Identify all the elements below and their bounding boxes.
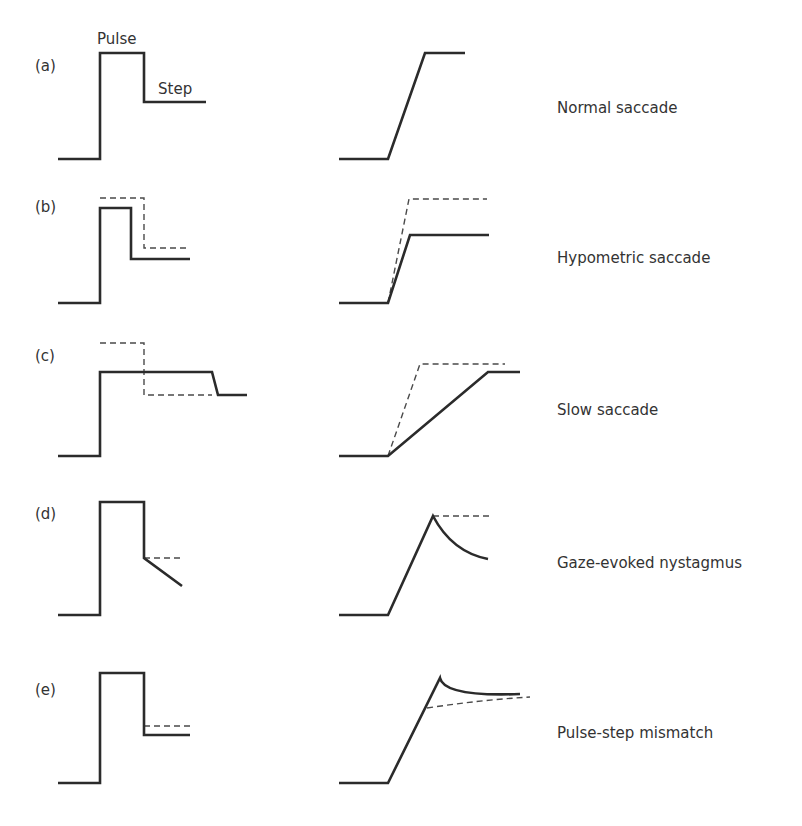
panel-e-normal-eye-position [427,697,530,708]
pulse-annotation: Pulse [97,30,137,48]
panel-label-b: (b) [35,198,56,216]
panel-a [58,53,465,159]
panel-d-pulse-step-signal [58,502,182,615]
panel-c-pulse-step-signal [58,372,247,456]
panel-b-normal-eye-position [388,199,487,303]
step-annotation: Step [158,80,192,98]
panel-label-c: (c) [35,347,55,365]
caption-slow-saccade: Slow saccade [557,401,658,419]
panel-c [58,343,520,456]
panel-e-eye-position [339,678,520,783]
caption-gaze-evoked-nystagmus: Gaze-evoked nystagmus [557,554,742,572]
panel-label-e: (e) [35,681,56,699]
panel-a-pulse-step-signal [58,53,206,159]
caption-normal-saccade: Normal saccade [557,99,677,117]
panel-d-eye-position [339,516,488,615]
panel-c-eye-position [339,372,520,456]
panel-a-eye-position [339,53,465,159]
saccade-diagram [0,0,802,826]
panel-d [58,502,490,615]
caption-hypometric-saccade: Hypometric saccade [557,249,710,267]
panel-label-a: (a) [35,57,56,75]
panel-e-pulse-step-signal [58,673,190,783]
panel-label-d: (d) [35,505,56,523]
caption-pulse-step-mismatch: Pulse-step mismatch [557,724,713,742]
panel-b-normal-signal [100,198,190,248]
panel-c-normal-signal [100,343,212,395]
panel-e [58,673,530,783]
panel-b-pulse-step-signal [58,208,190,303]
panel-b-eye-position [339,235,489,303]
panel-b [58,198,489,303]
